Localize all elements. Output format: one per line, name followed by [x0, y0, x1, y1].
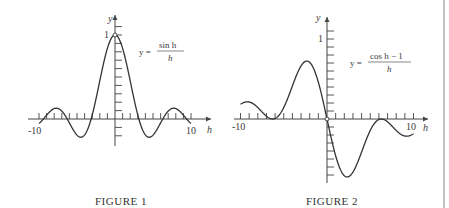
- fig1-equation-numerator: sin h: [159, 40, 177, 50]
- fig2-equation-lhs: y =: [350, 58, 362, 68]
- figure-1-caption: FIGURE 1: [95, 195, 147, 207]
- figure-2-plot: [234, 17, 428, 183]
- figure-canvas: y 1 -10 10 h y = sin h h FIGURE 1 y 1 -1…: [0, 0, 449, 208]
- fig1-equation-lhs: y =: [139, 47, 151, 57]
- fig1-y-tick-1: 1: [104, 29, 109, 40]
- figure-2-caption: FIGURE 2: [306, 195, 358, 207]
- fig1-y-axis-label: y: [107, 13, 113, 24]
- fig2-equation-numerator: cos h − 1: [370, 51, 403, 61]
- figure-1-plot: [28, 15, 211, 146]
- fig1-x-tick-10: 10: [186, 125, 196, 136]
- fig2-x-axis-label: h: [423, 122, 428, 133]
- fig2-x-tick-10: 10: [406, 121, 416, 132]
- fig2-y-tick-1: 1: [318, 33, 323, 44]
- fig2-equation-denominator: h: [387, 64, 392, 74]
- fig1-x-tick-neg10: -10: [28, 125, 41, 136]
- fig1-x-axis-label: h: [207, 124, 212, 135]
- y-axis-arrow-icon: [325, 17, 330, 22]
- x-axis-arrow-icon: [206, 117, 211, 122]
- y-axis-arrow-icon: [113, 15, 118, 20]
- x-axis-arrow-icon: [423, 117, 428, 122]
- hole-marker: [113, 33, 117, 37]
- hole-marker: [325, 117, 329, 121]
- fig1-equation-denominator: h: [168, 53, 173, 63]
- fig2-y-axis-label: y: [315, 12, 321, 23]
- fig2-x-tick-neg10: -10: [232, 121, 245, 132]
